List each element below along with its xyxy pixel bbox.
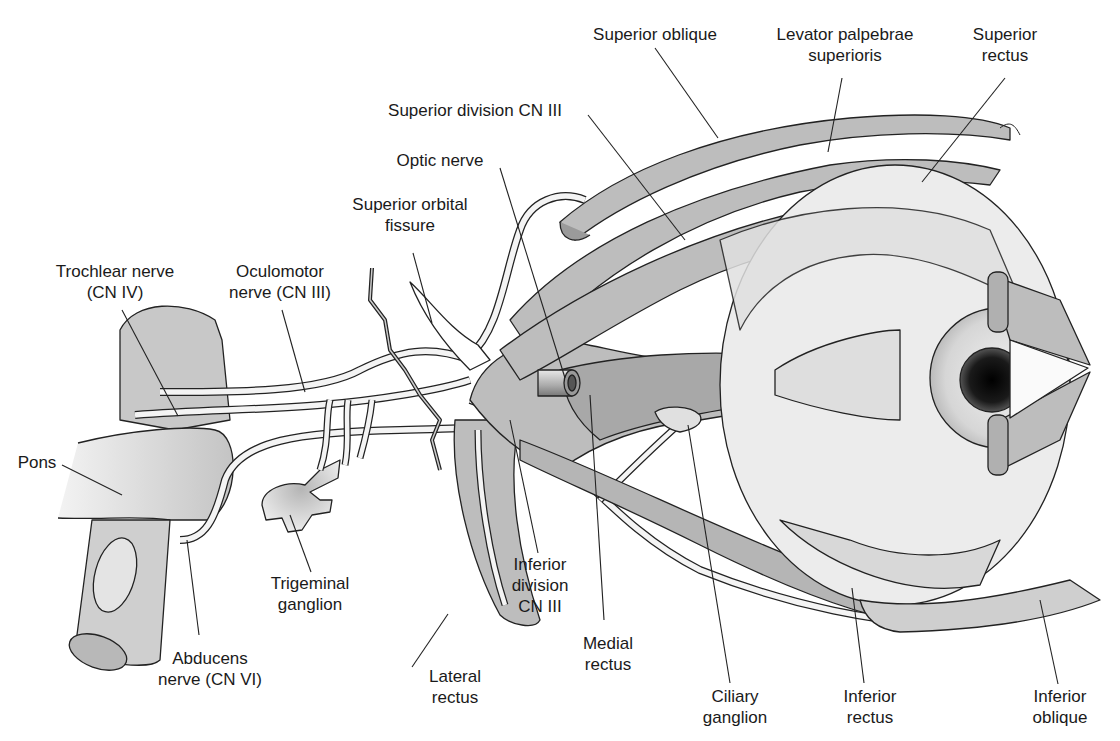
- label-trigeminal-ganglion: Trigeminal ganglion: [260, 573, 360, 615]
- label-levator-palpebrae-superioris: Levator palpebrae superioris: [760, 24, 930, 66]
- label-medial-rectus: Medial rectus: [568, 633, 648, 675]
- label-superior-rectus: Superior rectus: [960, 24, 1050, 66]
- ciliary-ganglion-shape: [655, 407, 701, 432]
- label-inferior-oblique: Inferior oblique: [1015, 686, 1105, 728]
- label-inferior-rectus: Inferior rectus: [830, 686, 910, 728]
- label-superior-division-cn-iii: Superior division CN III: [365, 100, 585, 121]
- optic-nerve-stump: [538, 370, 580, 396]
- trigeminal-ganglion-shape: [262, 460, 340, 532]
- label-inferior-division-cn-iii: Inferior division CN III: [500, 554, 580, 617]
- label-trochlear-nerve: Trochlear nerve (CN IV): [40, 261, 190, 303]
- label-optic-nerve: Optic nerve: [385, 150, 495, 171]
- pons-shape: [58, 306, 233, 677]
- label-abducens-nerve: Abducens nerve (CN VI): [145, 648, 275, 690]
- label-oculomotor-nerve: Oculomotor nerve (CN III): [210, 261, 350, 303]
- label-superior-orbital-fissure: Superior orbital fissure: [340, 194, 480, 236]
- label-ciliary-ganglion: Ciliary ganglion: [690, 686, 780, 728]
- label-pons: Pons: [12, 452, 62, 473]
- label-lateral-rectus: Lateral rectus: [420, 666, 490, 708]
- label-superior-oblique: Superior oblique: [580, 24, 730, 45]
